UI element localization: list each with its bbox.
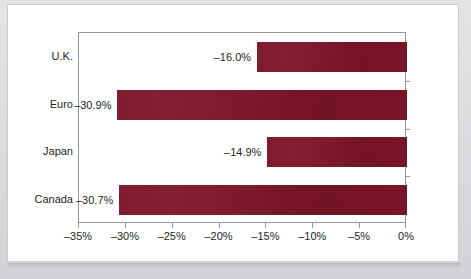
bar-japan[interactable] [267, 137, 407, 167]
x-axis-tick-label: 0% [398, 230, 414, 242]
x-axis: –35%–30%–25%–20%–15%–10%–5%0% [78, 223, 406, 253]
bar-value-label: –30.7% [76, 185, 117, 215]
x-axis-tick [125, 223, 126, 228]
category-label-canada: Canada [12, 184, 78, 214]
x-axis-tick [219, 223, 220, 228]
x-axis-tick-label: –30% [111, 230, 139, 242]
category-label-u-k: U.K. [12, 41, 78, 71]
bar-row: –16.0% [79, 42, 405, 72]
chart-card: U.K.EuroJapanCanada –16.0%–30.9%–14.9%–3… [7, 4, 459, 262]
bar-euro[interactable] [117, 90, 407, 120]
x-axis-tick [405, 223, 406, 228]
page-background: U.K.EuroJapanCanada –16.0%–30.9%–14.9%–3… [0, 0, 471, 279]
plot-area: –16.0%–30.9%–14.9%–30.7% [78, 32, 406, 223]
plot-inner: –16.0%–30.9%–14.9%–30.7% [79, 33, 405, 222]
x-axis-tick [265, 223, 266, 228]
category-label-japan: Japan [12, 136, 78, 166]
bar-value-label: –30.9% [74, 90, 115, 120]
x-axis-tick-label: –25% [158, 230, 186, 242]
card-shadow [9, 263, 461, 268]
x-axis-tick-label: –20% [204, 230, 232, 242]
bar-value-label: –14.9% [224, 137, 265, 167]
category-separator-tick [405, 129, 410, 130]
category-separator-tick [405, 176, 410, 177]
x-axis-tick-label: –15% [251, 230, 279, 242]
x-axis-tick [359, 223, 360, 228]
bar-row: –30.7% [79, 185, 405, 215]
bar-value-label: –16.0% [214, 42, 255, 72]
x-axis-tick [172, 223, 173, 228]
category-axis-labels: U.K.EuroJapanCanada [8, 32, 78, 223]
bar-u-k[interactable] [257, 42, 407, 72]
category-label-euro: Euro [12, 89, 78, 119]
bar-row: –14.9% [79, 137, 405, 167]
x-axis-tick [78, 223, 79, 228]
category-separator-tick [405, 81, 410, 82]
x-axis-tick-label: –5% [348, 230, 370, 242]
bar-chart: U.K.EuroJapanCanada –16.0%–30.9%–14.9%–3… [8, 5, 460, 263]
x-axis-tick [312, 223, 313, 228]
x-axis-tick-label: –10% [298, 230, 326, 242]
bar-row: –30.9% [79, 90, 405, 120]
bar-canada[interactable] [119, 185, 407, 215]
x-axis-tick-label: –35% [64, 230, 92, 242]
